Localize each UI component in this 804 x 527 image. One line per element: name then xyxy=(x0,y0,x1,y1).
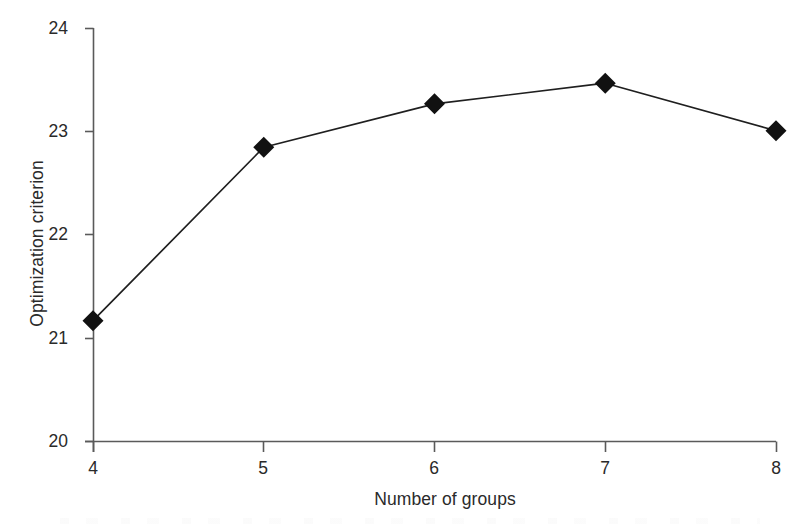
data-point-marker-x6 xyxy=(424,93,445,114)
data-series-line xyxy=(93,83,776,321)
x-tick-label-5: 5 xyxy=(248,458,278,479)
y-axis-label: Optimization criterion xyxy=(27,144,48,344)
y-axis-ticks xyxy=(85,29,94,442)
x-axis-label: Number of groups xyxy=(345,489,545,510)
x-tick-label-7: 7 xyxy=(590,458,620,479)
chart-axes xyxy=(85,28,776,452)
scan-artifact-strip xyxy=(60,518,760,524)
y-tick-label-20: 20 xyxy=(28,431,68,452)
line-chart-plot xyxy=(0,0,804,527)
x-tick-label-4: 4 xyxy=(78,458,108,479)
x-axis-ticks xyxy=(94,442,777,453)
data-point-marker-x7 xyxy=(595,73,616,94)
data-point-markers xyxy=(83,73,787,331)
x-tick-label-8: 8 xyxy=(761,458,791,479)
chart-figure: 24 23 22 21 20 4 5 6 7 8 Optimization cr… xyxy=(0,0,804,527)
y-tick-label-24: 24 xyxy=(28,18,68,39)
data-point-marker-x8 xyxy=(766,120,787,141)
x-tick-label-6: 6 xyxy=(419,458,449,479)
y-tick-label-23: 23 xyxy=(28,121,68,142)
